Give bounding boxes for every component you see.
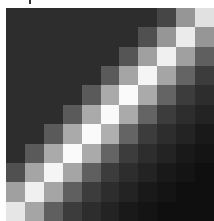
heatmap-cell bbox=[82, 8, 101, 27]
heatmap-cell bbox=[157, 66, 176, 85]
heatmap-cell bbox=[6, 124, 25, 143]
heatmap-cell bbox=[195, 163, 214, 182]
heatmap-grid bbox=[6, 8, 214, 221]
heatmap-cell bbox=[176, 8, 195, 27]
heatmap-cell bbox=[101, 47, 120, 66]
heatmap-cell bbox=[82, 105, 101, 124]
heatmap-cell bbox=[44, 47, 63, 66]
heatmap-cell bbox=[6, 163, 25, 182]
heatmap-cell bbox=[6, 105, 25, 124]
heatmap-cell bbox=[157, 124, 176, 143]
heatmap-cell bbox=[25, 66, 44, 85]
heatmap-cell bbox=[25, 144, 44, 163]
heatmap-cell bbox=[138, 202, 157, 221]
heatmap-cell bbox=[157, 8, 176, 27]
heatmap-cell bbox=[195, 124, 214, 143]
heatmap-cell bbox=[25, 105, 44, 124]
heatmap-cell bbox=[101, 182, 120, 201]
heatmap-cell bbox=[82, 182, 101, 201]
heatmap-cell bbox=[82, 144, 101, 163]
heatmap-cell bbox=[63, 163, 82, 182]
heatmap-cell bbox=[119, 202, 138, 221]
heatmap-cell bbox=[119, 85, 138, 104]
heatmap-cell bbox=[101, 144, 120, 163]
heatmap-cell bbox=[176, 85, 195, 104]
heatmap-cell bbox=[195, 47, 214, 66]
heatmap-cell bbox=[101, 124, 120, 143]
heatmap-cell bbox=[25, 8, 44, 27]
heatmap-cell bbox=[119, 182, 138, 201]
heatmap-cell bbox=[44, 182, 63, 201]
heatmap-cell bbox=[82, 66, 101, 85]
heatmap-cell bbox=[176, 66, 195, 85]
heatmap-cell bbox=[25, 47, 44, 66]
heatmap-cell bbox=[44, 66, 63, 85]
heatmap-cell bbox=[176, 105, 195, 124]
heatmap-cell bbox=[138, 163, 157, 182]
heatmap-cell bbox=[176, 144, 195, 163]
heatmap-cell bbox=[63, 8, 82, 27]
heatmap-cell bbox=[6, 27, 25, 46]
heatmap-cell bbox=[44, 202, 63, 221]
heatmap-cell bbox=[195, 27, 214, 46]
heatmap-cell bbox=[195, 105, 214, 124]
heatmap-cell bbox=[44, 8, 63, 27]
heatmap-cell bbox=[195, 8, 214, 27]
heatmap-cell bbox=[44, 105, 63, 124]
heatmap-cell bbox=[176, 47, 195, 66]
heatmap-cell bbox=[6, 182, 25, 201]
heatmap-cell bbox=[119, 124, 138, 143]
heatmap-cell bbox=[138, 144, 157, 163]
heatmap-cell bbox=[101, 66, 120, 85]
heatmap-cell bbox=[82, 163, 101, 182]
heatmap-cell bbox=[119, 163, 138, 182]
heatmap-cell bbox=[157, 144, 176, 163]
heatmap-cell bbox=[157, 85, 176, 104]
heatmap-cell bbox=[44, 144, 63, 163]
heatmap-cell bbox=[25, 202, 44, 221]
heatmap-cell bbox=[138, 105, 157, 124]
heatmap-cell bbox=[63, 105, 82, 124]
heatmap-cell bbox=[101, 8, 120, 27]
heatmap-cell bbox=[82, 85, 101, 104]
heatmap-cell bbox=[44, 27, 63, 46]
heatmap-cell bbox=[63, 85, 82, 104]
heatmap-cell bbox=[82, 202, 101, 221]
heatmap-cell bbox=[119, 144, 138, 163]
heatmap-cell bbox=[44, 124, 63, 143]
heatmap-cell bbox=[63, 47, 82, 66]
heatmap-cell bbox=[101, 202, 120, 221]
heatmap-cell bbox=[157, 27, 176, 46]
heatmap-cell bbox=[25, 27, 44, 46]
heatmap-cell bbox=[138, 66, 157, 85]
heatmap-cell bbox=[138, 124, 157, 143]
heatmap-cell bbox=[195, 66, 214, 85]
heatmap-cell bbox=[25, 163, 44, 182]
heatmap-cell bbox=[157, 163, 176, 182]
heatmap-cell bbox=[195, 202, 214, 221]
heatmap-cell bbox=[119, 27, 138, 46]
heatmap-cell bbox=[63, 124, 82, 143]
heatmap-cell bbox=[176, 27, 195, 46]
heatmap-cell bbox=[25, 182, 44, 201]
heatmap-cell bbox=[63, 66, 82, 85]
heatmap-cell bbox=[101, 163, 120, 182]
heatmap-cell bbox=[176, 202, 195, 221]
heatmap-cell bbox=[138, 27, 157, 46]
heatmap-cell bbox=[119, 47, 138, 66]
heatmap-cell bbox=[6, 66, 25, 85]
heatmap-cell bbox=[63, 202, 82, 221]
heatmap-cell bbox=[176, 124, 195, 143]
heatmap-cell bbox=[6, 85, 25, 104]
heatmap-cell bbox=[176, 182, 195, 201]
heatmap-cell bbox=[195, 144, 214, 163]
heatmap-cell bbox=[6, 144, 25, 163]
heatmap-cell bbox=[44, 85, 63, 104]
heatmap-cell bbox=[119, 8, 138, 27]
heatmap-cell bbox=[6, 202, 25, 221]
tick-mark bbox=[29, 0, 31, 4]
heatmap-cell bbox=[6, 47, 25, 66]
heatmap-cell bbox=[138, 47, 157, 66]
heatmap-cell bbox=[138, 182, 157, 201]
heatmap-cell bbox=[101, 105, 120, 124]
